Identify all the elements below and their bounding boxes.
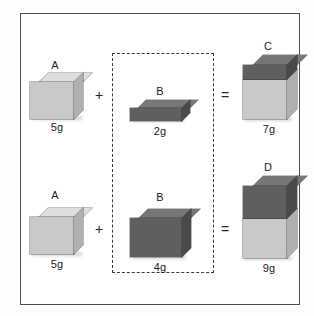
product-light-side-face xyxy=(287,70,297,119)
row2-equals-operator: = xyxy=(218,222,232,236)
block-front-face xyxy=(130,108,182,121)
diagram-canvas: A 5g + B 2g = C 7g A 5g + B xyxy=(0,0,314,316)
block-side-face xyxy=(74,73,83,119)
row1-reactant-a-mass: 5g xyxy=(30,122,84,133)
row1-equals-operator: = xyxy=(218,88,232,102)
row2-reactant-b-mass: 4g xyxy=(140,262,180,273)
row2-reactant-b-block xyxy=(130,209,192,258)
product-top-face xyxy=(253,55,307,65)
block-top-face xyxy=(39,208,92,217)
block-front-face xyxy=(30,82,74,119)
row1-reactant-a-block xyxy=(30,73,84,119)
row1-reactant-b-mass: 2g xyxy=(140,126,180,137)
product-light-side-face xyxy=(287,209,297,258)
block-front-face xyxy=(130,218,182,257)
row1-reactant-b-block xyxy=(130,100,192,122)
row2-reactant-b-letter: B xyxy=(138,192,182,203)
row1-product-block xyxy=(243,55,299,120)
row2-reactant-a-mass: 5g xyxy=(30,259,84,270)
row2-product-block xyxy=(243,176,299,259)
block-side-face xyxy=(182,209,191,257)
block-front-face xyxy=(30,217,74,254)
row2-plus-operator: + xyxy=(92,222,106,236)
product-light-front-face xyxy=(243,80,287,119)
row2-product-mass: 9g xyxy=(245,263,293,274)
row1-product-letter: C xyxy=(246,41,290,52)
row2-reactant-a-letter: A xyxy=(30,190,80,201)
product-light-front-face xyxy=(243,219,287,258)
row1-plus-operator: + xyxy=(92,88,106,102)
row1-reactant-a-letter: A xyxy=(30,60,80,71)
product-top-face xyxy=(253,176,307,186)
product-dark-front-face xyxy=(243,65,287,80)
product-dark-front-face xyxy=(243,186,287,219)
block-top-face xyxy=(39,73,92,82)
row1-product-mass: 7g xyxy=(245,124,293,135)
block-side-face xyxy=(74,208,83,254)
row1-reactant-b-letter: B xyxy=(138,86,182,97)
row2-product-letter: D xyxy=(246,162,290,173)
row2-reactant-a-block xyxy=(30,208,84,254)
